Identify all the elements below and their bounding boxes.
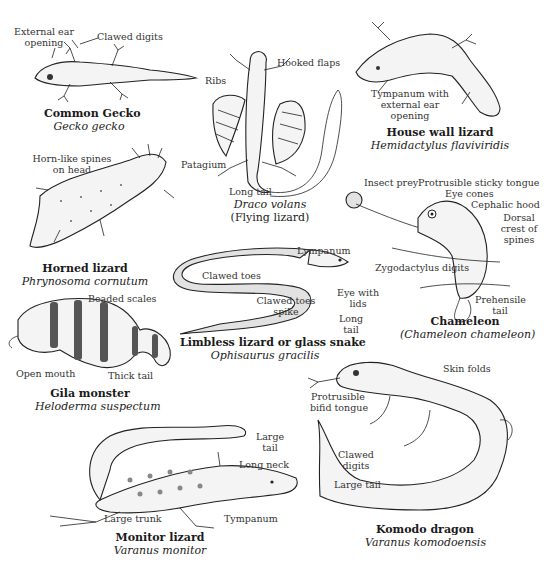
label-clawed-toes-spike: Clawed toes spike <box>256 295 316 317</box>
label-ribs: Ribs <box>205 75 226 86</box>
label-line: Dorsal <box>496 212 542 223</box>
label-lympanum: Lympanum <box>297 245 351 256</box>
label-skin-folds: Skin folds <box>443 363 491 374</box>
label-line: spike <box>256 306 316 317</box>
label-line: Prehensile <box>475 294 525 305</box>
label-zygodactylus-digits: Zygodactylus digits <box>375 262 469 273</box>
label-line: External ear <box>14 26 74 37</box>
label-line: tail <box>336 324 366 335</box>
gila-monster-drawing <box>9 299 170 368</box>
scientific-name: Varanus monitor <box>100 544 220 557</box>
caption-common-gecko: Common Gecko Gecko gecko <box>44 107 134 133</box>
label-cephalic-hood: Cephalic hood <box>471 199 540 210</box>
label-clawed-digits: Clawed digits <box>336 449 376 471</box>
label-beaded-scales: Beaded scales <box>88 293 156 304</box>
common-name: Gila monster <box>35 387 145 400</box>
label-line: opening <box>14 37 74 48</box>
label-line: Long <box>336 313 366 324</box>
scientific-name: Ophisaurus gracilis <box>180 349 350 362</box>
common-name: Monitor lizard <box>100 531 220 544</box>
label-clawed-digits: Clawed digits <box>97 31 163 42</box>
label-line: Clawed <box>336 449 376 460</box>
label-tympanum-ear-opening: Tympanum with external ear opening <box>370 88 450 121</box>
label-line: Large <box>255 431 285 442</box>
label-thick-tail: Thick tail <box>108 370 153 381</box>
label-protrusible-bifid-tongue: Protrusible bifid tongue <box>310 391 366 413</box>
label-tympanum: Tympanum <box>224 513 278 524</box>
label-hooked-flaps: Hooked flaps <box>277 57 340 68</box>
caption-gila-monster: Gila monster Heloderma suspectum <box>35 387 145 413</box>
scientific-name: Gecko gecko <box>44 120 134 133</box>
caption-horned-lizard: Horned lizard Phrynosoma cornutum <box>20 262 150 288</box>
caption-komodo-dragon: Komodo dragon Varanus komodoensis <box>365 523 485 549</box>
label-line: Clawed toes <box>256 295 316 306</box>
common-name: Komodo dragon <box>365 523 485 536</box>
scientific-name: Draco volans <box>220 198 320 211</box>
label-protrusible-sticky-tongue: Protrusible sticky tongue <box>418 177 539 188</box>
scientific-name: (Chameleon chameleon) <box>400 328 530 341</box>
common-name: Common Gecko <box>44 107 134 120</box>
label-long-tail: Long tail <box>336 313 366 335</box>
common-name: Chameleon <box>400 315 530 328</box>
label-eye-cones: Eye cones <box>445 188 494 199</box>
common-name: Limbless lizard or glass snake <box>180 336 350 349</box>
caption-monitor-lizard: Monitor lizard Varanus monitor <box>100 531 220 557</box>
common-name: House wall lizard <box>370 126 510 139</box>
caption-house-wall-lizard: House wall lizard Hemidactylus flaviviri… <box>370 126 510 152</box>
caption-chameleon: Chameleon (Chameleon chameleon) <box>400 315 530 341</box>
label-line: external ear <box>370 99 450 110</box>
label-line: spines <box>496 234 542 245</box>
label-line: Eye with <box>336 287 380 298</box>
label-long-tail: Long tail <box>229 186 272 197</box>
label-line: on head <box>32 164 112 175</box>
label-line: Tympanum with <box>370 88 450 99</box>
label-line: opening <box>370 110 450 121</box>
label-prehensile-tail: Prehensile tail <box>475 294 525 316</box>
label-line: Horn-like spines <box>32 153 112 164</box>
caption-flying-lizard: Draco volans (Flying lizard) <box>220 198 320 224</box>
label-large-tail: Large tail <box>334 479 381 490</box>
label-large-trunk: Large trunk <box>104 513 162 524</box>
label-horn-like-spines: Horn-like spines on head <box>32 153 112 175</box>
label-dorsal-crest-of-spines: Dorsal crest of spines <box>496 212 542 245</box>
label-patagium: Patagium <box>181 159 226 170</box>
label-line: lids <box>336 298 380 309</box>
label-long-neck: Long neck <box>239 459 289 470</box>
label-line: tail <box>255 442 285 453</box>
label-eye-with-lids: Eye with lids <box>336 287 380 309</box>
label-line: bifid tongue <box>310 402 366 413</box>
scientific-name: Varanus komodoensis <box>365 536 485 549</box>
label-clawed-toes: Clawed toes <box>202 270 261 281</box>
label-large-tail: Large tail <box>255 431 285 453</box>
caption-glass-snake: Limbless lizard or glass snake Ophisauru… <box>180 336 350 362</box>
label-external-ear-opening: External ear opening <box>14 26 74 48</box>
scientific-name: Heloderma suspectum <box>35 400 145 413</box>
common-name: Horned lizard <box>20 262 150 275</box>
scientific-name: Phrynosoma cornutum <box>20 275 150 288</box>
label-open-mouth: Open mouth <box>16 368 75 379</box>
label-line: crest of <box>496 223 542 234</box>
draco-drawing <box>213 52 342 197</box>
label-line: Protrusible <box>310 391 366 402</box>
scientific-name: Hemidactylus flaviviridis <box>370 139 510 152</box>
common-name: (Flying lizard) <box>220 211 320 224</box>
glass-snake-drawing <box>173 248 348 334</box>
label-line: digits <box>336 460 376 471</box>
label-insect-prey: Insect prey <box>364 177 418 188</box>
